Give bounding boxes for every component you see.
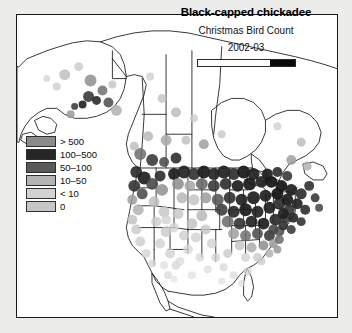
north-america-map (17, 15, 337, 317)
figure-root: Black-capped chickadee Christmas Bird Co… (0, 0, 352, 333)
map-panel[interactable] (16, 14, 338, 318)
abundance-circles (43, 62, 323, 287)
